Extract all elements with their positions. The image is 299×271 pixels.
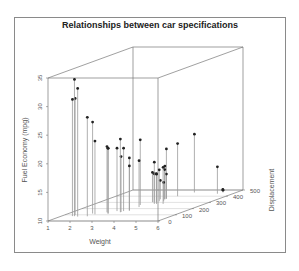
x-tick-label: 2 — [68, 225, 72, 231]
data-point — [119, 138, 122, 141]
data-point — [91, 121, 94, 124]
floor-grid — [48, 190, 243, 221]
data-point — [163, 168, 166, 171]
z-tick-label: 35 — [37, 74, 43, 81]
data-point — [107, 147, 110, 150]
y-axis-label: Displacement — [268, 169, 276, 211]
data-point — [216, 165, 219, 168]
data-point — [153, 161, 156, 164]
data-point — [162, 166, 165, 169]
x-axis-label: Weight — [89, 238, 111, 246]
z-tick-label: 15 — [37, 188, 43, 195]
x-tick-label: 5 — [134, 225, 138, 231]
z-tick-label: 20 — [37, 160, 43, 167]
data-point — [193, 133, 196, 136]
z-tick-label: 10 — [37, 217, 43, 224]
y-tick-label: 0 — [168, 219, 172, 225]
x-tick-label: 3 — [90, 225, 94, 231]
data-point — [165, 173, 168, 176]
data-point — [128, 157, 131, 160]
data-point — [122, 147, 125, 150]
data-point — [73, 78, 76, 81]
box-edge — [158, 190, 243, 221]
data-point — [222, 189, 225, 192]
data-point — [71, 98, 74, 101]
data-point — [139, 138, 142, 141]
data-point — [165, 148, 168, 151]
x-tick-label: 4 — [112, 225, 116, 231]
y-tick-label: 300 — [216, 200, 227, 206]
x-tick-label: 1 — [46, 225, 50, 231]
data-point — [116, 147, 119, 150]
data-point — [138, 159, 141, 162]
box-edge — [158, 47, 243, 78]
data-point — [94, 140, 97, 143]
data-point — [158, 168, 161, 171]
z-axis-label: Fuel Economy (mpg) — [21, 118, 29, 183]
data-point — [176, 142, 179, 145]
y-tick-label: 400 — [233, 194, 244, 200]
data-point — [162, 181, 165, 184]
plot-box — [48, 47, 243, 221]
z-tick-label: 30 — [37, 103, 43, 110]
data-point — [86, 116, 89, 119]
y-tick-label: 500 — [250, 188, 261, 194]
data-point — [128, 165, 131, 168]
data-points — [71, 78, 224, 217]
axis-ticks: 1234561015202530350100200300400500 — [37, 74, 261, 231]
scatter3d-plot: 1234561015202530350100200300400500 Weigh… — [0, 0, 299, 271]
y-tick-label: 200 — [199, 207, 210, 213]
z-tick-label: 25 — [37, 131, 43, 138]
data-point — [155, 173, 158, 176]
box-edge — [48, 47, 133, 78]
x-tick-label: 6 — [156, 225, 160, 231]
y-tick-label: 100 — [182, 213, 193, 219]
data-point — [76, 87, 79, 90]
